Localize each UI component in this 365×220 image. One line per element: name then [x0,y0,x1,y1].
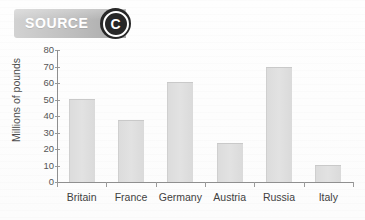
bar [167,82,193,182]
chart-page: SOURCE C Millions of pounds 010203040506… [0,0,365,220]
x-axis-category-label: Italy [304,191,353,203]
bar [315,165,341,183]
x-axis-category-label: Austria [205,191,254,203]
y-axis-tick-label: 80 [43,44,54,55]
source-banner: SOURCE C [14,9,136,38]
x-axis-tick-mark [57,182,58,187]
y-axis-tick-label: 0 [49,176,54,187]
x-axis-tick-mark [304,182,305,187]
bar [217,143,243,182]
bar [69,99,95,183]
y-axis-tick-label: 10 [43,160,54,171]
x-axis-category-label: Russia [254,191,303,203]
x-axis-tick-mark [205,182,206,187]
badge-ring: C [103,11,129,37]
source-letter-badge: C [100,8,131,39]
x-axis-tick-mark [106,182,107,187]
x-axis-category-label: Britain [57,191,106,203]
x-axis-tick-mark [353,182,354,187]
x-axis-category-label: France [106,191,155,203]
x-axis-tick-mark [156,182,157,187]
y-axis-tick-label: 30 [43,127,54,138]
y-axis-tick-label: 40 [43,110,54,121]
source-banner-label: SOURCE [25,15,89,31]
x-axis-tick-mark [254,182,255,187]
badge-letter: C [110,17,120,31]
y-axis-title: Millions of pounds [10,40,22,160]
y-axis-tick-label: 50 [43,94,54,105]
y-axis-tick-label: 70 [43,61,54,72]
plot-area [57,50,353,182]
bar-chart: Millions of pounds 01020304050607080 Bri… [0,42,365,220]
bar [118,120,144,182]
y-axis-tick-label: 60 [43,77,54,88]
x-axis-category-label: Germany [156,191,205,203]
bar [266,67,292,182]
y-axis-tick-label: 20 [43,143,54,154]
